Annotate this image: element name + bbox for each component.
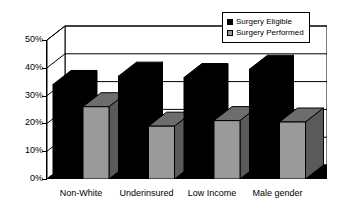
y-tick-10%: 10% — [9, 146, 43, 155]
bar-male-gender-surgery-performed-front — [280, 122, 306, 179]
bar-underinsured-surgery-eligible-front — [119, 76, 145, 179]
bar-non-white-surgery-performed-front — [83, 107, 109, 179]
legend-swatch-eligible — [227, 19, 233, 25]
y-tickmark-30% — [42, 96, 47, 97]
y-tickmark-0% — [42, 179, 47, 180]
legend-label-performed: Surgery Performed — [236, 29, 304, 37]
y-tickmark-40% — [42, 68, 47, 69]
x-tick-male-gender: Male gender — [238, 188, 318, 198]
chart-legend: Surgery Eligible Surgery Performed — [222, 12, 310, 43]
bar-male-gender-surgery-eligible-front — [250, 69, 276, 179]
legend-label-eligible: Surgery Eligible — [236, 18, 292, 26]
bar-low-income-surgery-performed-front — [214, 121, 240, 179]
y-tick-30%: 30% — [9, 91, 43, 100]
y-tickmark-20% — [42, 123, 47, 124]
bar-non-white-surgery-eligible-front — [53, 84, 79, 179]
y-tick-40%: 40% — [9, 63, 43, 72]
y-axis-line — [46, 40, 47, 180]
legend-swatch-performed — [227, 30, 233, 36]
legend-item-1: Surgery Performed — [227, 28, 304, 38]
y-tickmark-50% — [42, 40, 47, 41]
bar-underinsured-surgery-performed-front — [149, 126, 175, 179]
bar-chart: 0%10%20%30%40%50% Non-WhiteUnderinsuredL… — [0, 0, 339, 208]
y-tickmark-10% — [42, 151, 47, 152]
y-tick-50%: 50% — [9, 35, 43, 44]
legend-item-0: Surgery Eligible — [227, 17, 304, 27]
y-tick-20%: 20% — [9, 118, 43, 127]
bar-low-income-surgery-eligible-front — [184, 78, 210, 179]
y-tick-0%: 0% — [9, 174, 43, 183]
